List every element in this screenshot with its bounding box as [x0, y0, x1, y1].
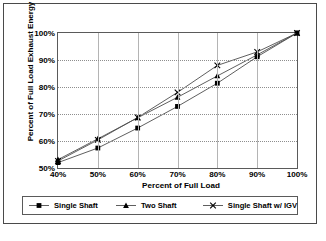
legend-item: Two Shaft	[110, 201, 197, 210]
y-tick-label: 60%	[39, 137, 55, 146]
gridline-horizontal	[58, 141, 297, 143]
gridline-vertical	[178, 33, 179, 168]
gridline-vertical	[217, 33, 218, 168]
legend-label: Two Shaft	[141, 201, 177, 210]
legend-marker-square-icon	[28, 201, 50, 210]
plot-area: 40%50%60%70%80%90%100%50%60%70%80%90%100…	[57, 32, 298, 169]
gridline-horizontal	[58, 87, 297, 89]
legend-marker-triangle-icon	[115, 201, 137, 210]
y-tick-label: 70%	[39, 110, 55, 119]
x-tick-label: 60%	[130, 170, 146, 179]
y-tick-label: 100%	[34, 29, 55, 38]
legend-marker-x-icon	[202, 201, 224, 210]
legend-item: Single Shaft w/ IGV	[197, 201, 297, 210]
gridline-vertical	[138, 33, 139, 168]
legend-label: Single Shaft w/ IGV	[228, 201, 297, 210]
gridline-horizontal	[58, 114, 297, 116]
x-tick-label: 50%	[90, 170, 106, 179]
y-tick-label: 80%	[39, 83, 55, 92]
y-axis-title: Percent of Full Load Exhaust Energy	[26, 0, 35, 146]
x-tick-label: 80%	[209, 170, 225, 179]
gridline-vertical	[98, 33, 99, 168]
legend-label: Single Shaft	[54, 201, 98, 210]
y-tick-label: 50%	[39, 164, 55, 173]
gridline-horizontal	[58, 60, 297, 62]
chart-legend: Single ShaftTwo ShaftSingle Shaft w/ IGV	[22, 196, 298, 215]
gridline-vertical	[257, 33, 258, 168]
x-tick-label: 100%	[287, 170, 308, 179]
x-tick-label: 90%	[249, 170, 265, 179]
chart-body: Percent of Full Load Exhaust Energy 40%5…	[4, 4, 316, 223]
x-axis-title: Percent of Full Load	[56, 181, 306, 190]
x-tick-label: 70%	[169, 170, 185, 179]
figure-frame: Percent of Full Load Exhaust Energy 40%5…	[3, 3, 317, 224]
y-tick-label: 90%	[39, 56, 55, 65]
legend-item: Single Shaft	[23, 201, 110, 210]
